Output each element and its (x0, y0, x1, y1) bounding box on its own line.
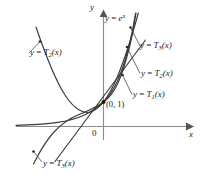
label-t3-bottom-fn: T (57, 158, 62, 168)
label-exp-eq: = (111, 13, 116, 23)
y-axis-label: y (90, 3, 94, 12)
label-t3-bottom-arg: (x) (65, 158, 75, 168)
point-label-0-1: (0, 1) (106, 100, 124, 109)
label-t2-left-eq: = (36, 47, 41, 57)
label-t3-top-arg: (x) (162, 40, 172, 50)
label-t1-right-sub: 1 (152, 93, 155, 100)
label-t1-right: y = T1(x) (133, 90, 165, 99)
label-t3-bottom-eq: = (49, 158, 54, 168)
label-exp: y = ex (105, 14, 125, 23)
label-t2-left-arg: (x) (52, 47, 62, 57)
label-t2-left-fn: T (44, 47, 49, 57)
label-t2-right-lhs: y (141, 68, 145, 78)
leader-dot-t1-right (121, 74, 124, 77)
origin-label: 0 (92, 129, 97, 138)
label-t1-right-lhs: y (133, 89, 137, 99)
label-t3-top: y = T3(x) (140, 41, 172, 50)
label-t3-bottom-sub: 3 (62, 162, 65, 169)
label-t3-top-fn: T (154, 40, 159, 50)
label-t1-right-arg: (x) (155, 89, 165, 99)
point-marker-0-1 (102, 100, 106, 104)
label-t2-right-fn: T (155, 68, 160, 78)
leader-dots-group (32, 26, 132, 153)
label-t3-top-eq: = (146, 40, 151, 50)
leader-dot-t3-bottom (32, 150, 35, 153)
taylor-polynomial-figure: y x 0 (0, 1) y = ex y = T3(x) y = T2(x) … (0, 0, 206, 185)
label-t3-top-sub: 3 (159, 44, 162, 51)
leader-dot-t2-left (39, 40, 42, 43)
curve-T2 (36, 13, 138, 112)
label-exp-fn: e (119, 13, 123, 23)
leader-t2-right (127, 47, 140, 74)
label-t2-left: y = T2(x) (30, 48, 62, 57)
curves-group (16, 13, 146, 164)
leader-t1-right (123, 75, 133, 95)
plot-canvas (0, 0, 206, 185)
label-t2-right-eq: = (147, 68, 152, 78)
label-t3-top-lhs: y (140, 40, 144, 50)
label-exp-lhs: y (105, 13, 109, 23)
leader-dot-t3-top (129, 26, 132, 29)
curve-T3 (34, 13, 137, 164)
x-axis-label: x (189, 130, 193, 139)
label-t3-bottom: y = T3(x) (43, 159, 75, 168)
label-t2-right-sub: 2 (160, 72, 163, 79)
label-t3-bottom-lhs: y (43, 158, 47, 168)
label-t1-right-fn: T (147, 89, 152, 99)
label-t1-right-eq: = (139, 89, 144, 99)
label-t2-right: y = T2(x) (141, 69, 173, 78)
leader-dot-t2-right (126, 46, 129, 49)
label-t2-left-sub: 2 (49, 51, 52, 58)
label-t2-right-arg: (x) (163, 68, 173, 78)
label-t2-left-lhs: y (30, 47, 34, 57)
